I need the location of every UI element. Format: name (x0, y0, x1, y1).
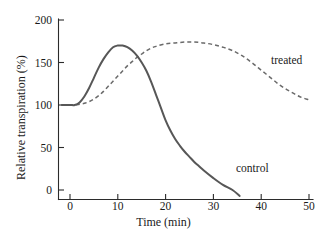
x-tick-label-20: 20 (151, 200, 181, 212)
y-axis-title: Relative transpiration (%) (14, 55, 29, 180)
x-tick-label-0: 0 (55, 200, 85, 212)
control-series-label: control (236, 162, 269, 174)
treated-curve (62, 42, 309, 105)
x-tick-label-10: 10 (103, 200, 133, 212)
x-tick-label-30: 30 (198, 200, 228, 212)
y-tick-label-0: 0 (22, 184, 52, 196)
x-tick-label-40: 40 (246, 200, 276, 212)
treated-series-label: treated (271, 54, 302, 66)
y-tick-label-200: 200 (22, 14, 52, 26)
transpiration-chart-figure: 200 150 100 50 0 0 10 20 30 40 50 Relati… (0, 0, 327, 239)
control-curve (62, 45, 240, 196)
x-axis-title: Time (min) (0, 215, 327, 230)
x-tick-label-50: 50 (294, 200, 324, 212)
x-axis-ticks (70, 194, 309, 200)
